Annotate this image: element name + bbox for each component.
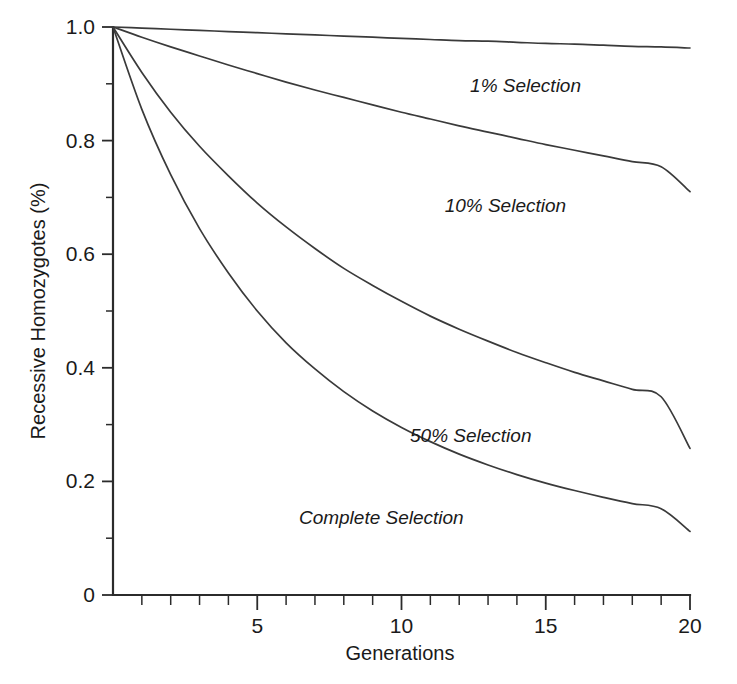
series-label-50-selection: 50% Selection bbox=[410, 425, 531, 446]
x-tick-label: 5 bbox=[251, 614, 263, 637]
x-axis-tick-labels: 5101520 bbox=[251, 614, 701, 637]
chart-page: 00.20.40.60.81.0 5101520 1% Selection10%… bbox=[0, 0, 737, 684]
y-tick-label: 1.0 bbox=[66, 15, 95, 38]
y-tick-label: 0.6 bbox=[66, 242, 95, 265]
y-tick-label: 0.8 bbox=[66, 129, 95, 152]
curve-10-selection bbox=[113, 27, 690, 192]
y-tick-label: 0.2 bbox=[66, 469, 95, 492]
series-label-10-selection: 10% Selection bbox=[445, 195, 566, 216]
recessive-homozygotes-line-chart: 00.20.40.60.81.0 5101520 1% Selection10%… bbox=[0, 0, 737, 684]
x-axis-ticks bbox=[142, 595, 690, 610]
y-axis-tick-labels: 00.20.40.60.81.0 bbox=[66, 15, 96, 606]
y-axis-title: Recessive Homozygotes (%) bbox=[27, 183, 49, 440]
x-tick-label: 20 bbox=[678, 614, 701, 637]
y-tick-label: 0.4 bbox=[66, 356, 96, 379]
series-label-1-selection: 1% Selection bbox=[470, 75, 581, 96]
curve-50-selection bbox=[113, 27, 690, 448]
curve-complete-selection bbox=[113, 27, 690, 531]
curve-1-selection bbox=[113, 27, 690, 48]
x-tick-label: 10 bbox=[390, 614, 413, 637]
y-tick-label: 0 bbox=[83, 583, 95, 606]
series-label-complete-selection: Complete Selection bbox=[299, 507, 464, 528]
x-tick-label: 15 bbox=[534, 614, 557, 637]
x-axis-title: Generations bbox=[346, 642, 455, 664]
data-curves bbox=[113, 27, 690, 531]
y-axis-ticks bbox=[102, 27, 113, 595]
